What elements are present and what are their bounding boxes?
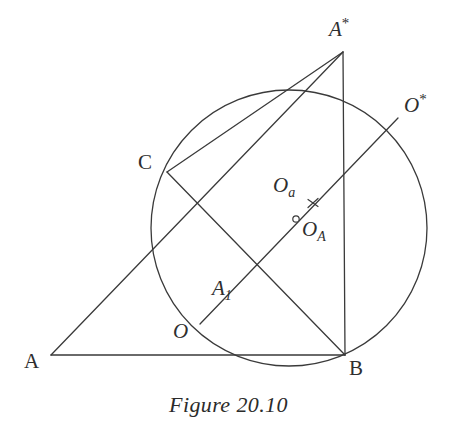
- label-point-astar: A*: [329, 16, 349, 40]
- point-marker-oa-cap: [293, 216, 299, 222]
- figure-container: A B C O A1 A* O* Oa OA Figure 20.10: [0, 0, 457, 435]
- label-point-oa-lower-subscript: a: [288, 185, 295, 200]
- label-point-oa-lower-base: O: [273, 173, 288, 197]
- label-point-oa-upper: OA: [302, 219, 326, 244]
- label-point-ostar: O*: [404, 92, 427, 116]
- figure-caption: Figure 20.10: [0, 392, 457, 418]
- label-point-a1: A1: [212, 278, 232, 303]
- geometry-diagram: [0, 0, 457, 435]
- segment-c-astar: [167, 52, 343, 172]
- label-point-a: A: [24, 351, 39, 372]
- label-point-o: O: [173, 321, 188, 342]
- label-point-oa-upper-subscript: A: [317, 229, 326, 244]
- label-point-ostar-superscript: *: [419, 91, 427, 107]
- label-point-b: B: [349, 358, 363, 379]
- label-point-astar-base: A: [329, 17, 342, 41]
- segment-astar-b: [343, 52, 345, 355]
- label-point-c: C: [138, 152, 152, 173]
- label-point-oa-upper-base: O: [302, 217, 317, 241]
- label-point-a1-base: A: [212, 276, 225, 300]
- label-point-oa-lower: Oa: [273, 175, 295, 200]
- label-point-a1-subscript: 1: [225, 288, 232, 303]
- label-point-astar-superscript: *: [342, 15, 350, 31]
- label-point-ostar-base: O: [404, 93, 419, 117]
